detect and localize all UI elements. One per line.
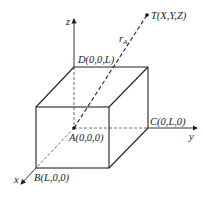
z-axis-label: z [65, 16, 70, 27]
label-B: B(L,0,0) [34, 172, 70, 184]
label-C: C(0,L,0) [150, 116, 186, 128]
label-rA-sub: A [122, 38, 128, 46]
x-axis-label: x [13, 174, 19, 185]
cube-coordinate-diagram: z y x T(X,Y,Z) D(0,0,L) A(0,0,0) C(0,L,0… [0, 0, 204, 197]
point-A [72, 126, 76, 130]
label-D: D(0,0,L) [77, 54, 115, 66]
cube [36, 67, 148, 168]
label-T: T(X,Y,Z) [151, 10, 187, 22]
point-T [145, 13, 149, 17]
label-rA: rA [119, 33, 128, 46]
label-A: A(0,0,0) [68, 132, 104, 144]
y-axis-label: y [188, 131, 194, 142]
vector-rA [74, 15, 147, 128]
